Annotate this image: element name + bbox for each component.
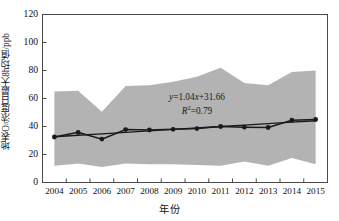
data-point-marker <box>123 127 128 132</box>
data-point-marker <box>218 124 223 129</box>
y-axis-ticks: 020406080100120 <box>24 8 47 187</box>
y-axis-tick-label: 20 <box>28 148 38 159</box>
y-axis-tick-label: 100 <box>24 36 39 47</box>
data-point-marker <box>266 125 271 130</box>
x-axis-tick-label: 2005 <box>69 186 88 196</box>
x-axis-tick-label: 2015 <box>306 186 325 196</box>
x-axis-tick-label: 2011 <box>212 186 230 196</box>
x-axis-tick-label: 2007 <box>116 186 135 196</box>
x-axis-tick-label: 2004 <box>45 186 64 196</box>
r-squared-text: R2=0.79 <box>181 104 213 116</box>
uncertainty-band <box>54 68 315 167</box>
x-axis-tick-label: 2009 <box>164 186 183 196</box>
plot-area <box>52 68 318 167</box>
x-axis-tick-label: 2013 <box>259 186 278 196</box>
data-point-marker <box>313 117 318 122</box>
x-axis-tick-label: 2012 <box>235 186 254 196</box>
y-axis-tick-label: 120 <box>24 8 39 19</box>
data-point-marker <box>171 127 176 132</box>
chart-container: 地表O3浓度日最大8h均值/ppb 020406080100120 200420… <box>0 0 339 221</box>
y-axis-tick-label: 40 <box>28 120 38 131</box>
x-axis-tick-label: 2014 <box>283 186 302 196</box>
x-axis-ticks: 2004200520062007200820092010201120122013… <box>43 179 328 196</box>
data-point-marker <box>147 128 152 133</box>
x-axis-tick-label: 2008 <box>140 186 159 196</box>
data-point-marker <box>242 125 247 130</box>
x-axis-tick-label: 2010 <box>188 186 207 196</box>
chart-svg: 020406080100120 200420052006200720082009… <box>0 0 339 221</box>
x-axis-tick-label: 2006 <box>93 186 112 196</box>
y-axis-tick-label: 80 <box>28 64 38 75</box>
regression-equation-text: y=1.04x+31.66 <box>168 92 225 102</box>
data-point-marker <box>99 137 104 142</box>
y-axis-tick-label: 60 <box>28 92 38 103</box>
x-axis-title: 年份 <box>0 201 339 216</box>
data-point-marker <box>76 130 81 135</box>
data-point-marker <box>289 118 294 123</box>
data-point-marker <box>52 135 57 140</box>
y-axis-tick-label: 0 <box>33 176 38 187</box>
data-point-marker <box>194 126 199 131</box>
